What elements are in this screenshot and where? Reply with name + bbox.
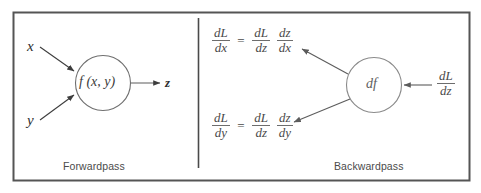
forward-node-label: f (x, y) bbox=[79, 74, 115, 90]
equation-dL-dx: dL dx = dL dz dz dx bbox=[212, 26, 293, 55]
frac-dz-dx: dz dx bbox=[277, 26, 293, 55]
arrow-y-to-node bbox=[40, 95, 74, 120]
backward-caption: Backwardpass bbox=[334, 160, 403, 172]
frac-dz-dx-denominator: dx bbox=[277, 41, 293, 55]
equals-sign-y: = bbox=[233, 118, 248, 134]
incoming-gradient-dL-dz: dL dz bbox=[437, 69, 455, 98]
frac-dL-dz-x-denominator: dz bbox=[252, 41, 270, 55]
frac-dL-dy-numerator: dL bbox=[212, 111, 230, 126]
frac-dL-dx-numerator: dL bbox=[212, 26, 230, 41]
equation-dL-dy: dL dy = dL dz dz dy bbox=[212, 111, 293, 140]
frac-dL-dz-y-denominator: dz bbox=[252, 126, 270, 140]
figure-root: x y f (x, y) z Forwardpass dL dx = dL dz… bbox=[0, 0, 481, 193]
forward-input-y-label: y bbox=[27, 112, 34, 129]
forward-caption: Forwardpass bbox=[63, 160, 125, 172]
frac-dL-dx: dL dx bbox=[212, 26, 230, 55]
frac-dz-dy-numerator: dz bbox=[277, 111, 293, 126]
frac-dL-dy-denominator: dy bbox=[212, 126, 230, 140]
arrow-node-to-dLdx bbox=[302, 49, 348, 74]
backward-node-label: df bbox=[366, 76, 377, 92]
frac-dL-dy: dL dy bbox=[212, 111, 230, 140]
arrow-x-to-node bbox=[40, 47, 74, 71]
equals-sign-x: = bbox=[233, 33, 248, 49]
frac-dL-dz-y-numerator: dL bbox=[252, 111, 270, 126]
frac-dz-dy-denominator: dy bbox=[277, 126, 293, 140]
forward-input-x-label: x bbox=[27, 38, 34, 55]
frac-dL-dz-y: dL dz bbox=[252, 111, 270, 140]
frac-dL-dz-x: dL dz bbox=[252, 26, 270, 55]
frac-dL-dz-x-numerator: dL bbox=[252, 26, 270, 41]
frac-incoming-dL-dz-denominator: dz bbox=[437, 84, 455, 98]
frac-incoming-dL-dz-numerator: dL bbox=[437, 69, 455, 84]
frac-dz-dx-numerator: dz bbox=[277, 26, 293, 41]
arrow-node-to-dLdy bbox=[294, 99, 350, 122]
forward-output-z-label: z bbox=[165, 75, 170, 91]
frac-dz-dy: dz dy bbox=[277, 111, 293, 140]
frac-dL-dx-denominator: dx bbox=[212, 41, 230, 55]
frac-incoming-dL-dz: dL dz bbox=[437, 69, 455, 98]
